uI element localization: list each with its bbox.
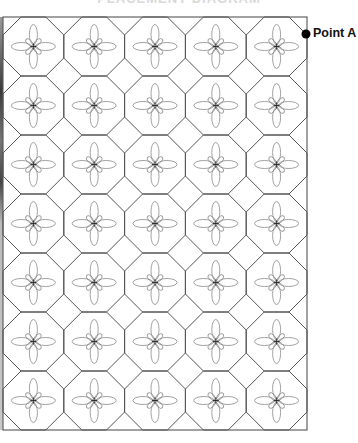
flower-motif — [133, 143, 177, 187]
flower-motif — [194, 202, 238, 246]
flower-motif — [194, 25, 238, 69]
flower-motif — [255, 261, 299, 305]
flower-motif — [11, 84, 55, 128]
flower-motif — [194, 84, 238, 128]
quilt-diagram — [0, 0, 358, 443]
flower-motif — [72, 84, 116, 128]
flower-motif — [194, 320, 238, 364]
flower-motif — [11, 25, 55, 69]
flower-motif — [133, 320, 177, 364]
flower-motif — [133, 379, 177, 423]
flower-motif — [255, 25, 299, 69]
flower-motif — [133, 25, 177, 69]
flower-motif — [255, 84, 299, 128]
flower-motif — [72, 25, 116, 69]
flower-motif — [11, 379, 55, 423]
flower-motif — [194, 143, 238, 187]
flower-motif — [133, 84, 177, 128]
flower-motif — [72, 202, 116, 246]
flower-motif — [133, 261, 177, 305]
point-a-marker — [302, 30, 311, 39]
flower-motif — [72, 379, 116, 423]
flower-motif — [72, 143, 116, 187]
point-a-label: Point A — [313, 26, 356, 40]
flower-motif — [255, 320, 299, 364]
flower-motif — [11, 320, 55, 364]
flower-motif — [11, 261, 55, 305]
flower-motif — [255, 202, 299, 246]
flower-motif — [255, 379, 299, 423]
flower-motif — [72, 320, 116, 364]
flower-motif — [133, 202, 177, 246]
flower-motif — [72, 261, 116, 305]
flower-motif — [194, 379, 238, 423]
flower-motif — [11, 143, 55, 187]
flower-motif — [11, 202, 55, 246]
flower-motif — [255, 143, 299, 187]
flower-motif — [194, 261, 238, 305]
